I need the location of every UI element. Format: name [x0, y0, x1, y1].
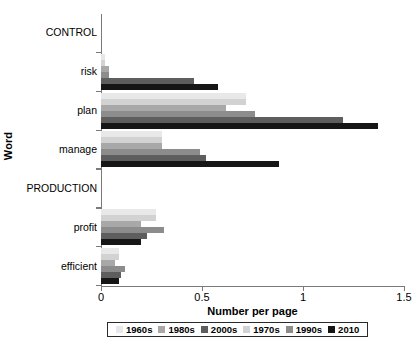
category-row: risk [101, 53, 404, 92]
x-axis-tick-label: 1 [283, 291, 323, 303]
bar [101, 278, 119, 284]
category-row: plan [101, 92, 404, 131]
bar [101, 84, 218, 90]
bar [101, 161, 279, 167]
legend-item: 1980s [158, 324, 194, 335]
legend-item: 2000s [201, 324, 237, 335]
x-axis-tick-label: 0.5 [182, 291, 222, 303]
legend-label: 1980s [168, 324, 194, 335]
x-axis-title: Number per page [101, 305, 404, 317]
category-row: PRODUCTION [101, 169, 404, 208]
bar [101, 123, 378, 129]
y-axis-title: Word [2, 116, 14, 176]
category-row: efficient [101, 247, 404, 286]
x-axis-tick-label: 0 [81, 291, 121, 303]
category-row: manage [101, 131, 404, 170]
legend-swatch [243, 326, 250, 333]
bar-chart-figure: Word CONTROLriskplanmanagePRODUCTIONprof… [0, 0, 413, 347]
category-label: efficient [61, 261, 97, 272]
x-axis-line [101, 286, 405, 287]
legend-label: 2000s [211, 324, 237, 335]
caption-strip [0, 340, 413, 347]
category-row: profit [101, 208, 404, 247]
chart-legend: 1960s1980s2000s1970s1990s2010 [107, 322, 368, 337]
legend-label: 2010 [338, 324, 359, 335]
legend-swatch [286, 326, 293, 333]
bar [101, 239, 141, 245]
category-label: plan [77, 105, 97, 116]
legend-item: 1960s [116, 324, 152, 335]
legend-swatch [116, 326, 123, 333]
legend-swatch [201, 326, 208, 333]
legend-label: 1970s [253, 324, 279, 335]
category-label: risk [81, 66, 97, 77]
legend-swatch [158, 326, 165, 333]
category-label: PRODUCTION [26, 183, 97, 194]
legend-label: 1990s [296, 324, 322, 335]
legend-item: 1970s [243, 324, 279, 335]
category-row: CONTROL [101, 14, 404, 53]
category-label: profit [74, 222, 97, 233]
legend-label: 1960s [126, 324, 152, 335]
plot-area: CONTROLriskplanmanagePRODUCTIONprofiteff… [101, 14, 404, 286]
legend-item: 2010 [328, 324, 359, 335]
category-label: CONTROL [46, 27, 97, 38]
x-axis-tick-label: 1.5 [384, 291, 413, 303]
legend-swatch [328, 326, 335, 333]
legend-item: 1990s [286, 324, 322, 335]
category-label: manage [59, 144, 97, 155]
